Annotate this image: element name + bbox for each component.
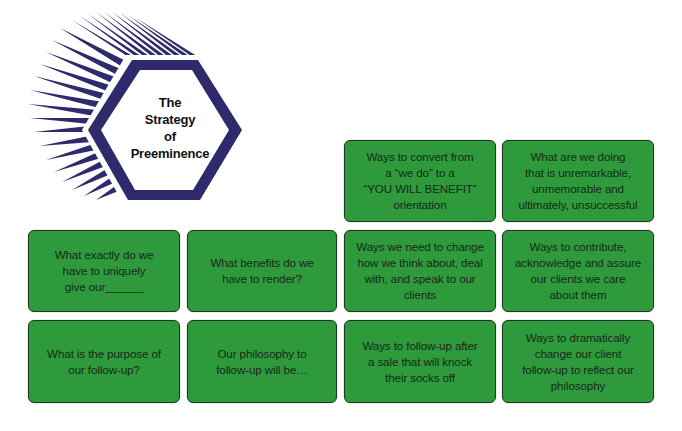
- strategy-logo: The Strategy of Preeminence: [0, 0, 260, 215]
- card-contribute-acknowledge: Ways to contribute, acknowledge and assu…: [502, 230, 654, 312]
- card-purpose-follow-up: What is the purpose of our follow-up?: [28, 320, 180, 403]
- card-philosophy-follow-up: Our philosophy to follow-up will be…: [187, 320, 337, 403]
- card-convert-we-do: Ways to convert from a “we do” to a “YOU…: [344, 140, 496, 222]
- card-uniquely-give: What exactly do we have to uniquely give…: [28, 230, 180, 312]
- card-change-thinking: Ways we need to change how we think abou…: [344, 230, 496, 312]
- card-dramatically-change: Ways to dramatically change our client f…: [502, 320, 654, 403]
- card-unremarkable: What are we doing that is unremarkable, …: [502, 140, 654, 222]
- logo-title: The Strategy of Preeminence: [118, 94, 222, 162]
- card-benefits-render: What benefits do we have to render?: [187, 230, 337, 312]
- card-follow-up-after-sale: Ways to follow-up after a sale that will…: [344, 320, 496, 403]
